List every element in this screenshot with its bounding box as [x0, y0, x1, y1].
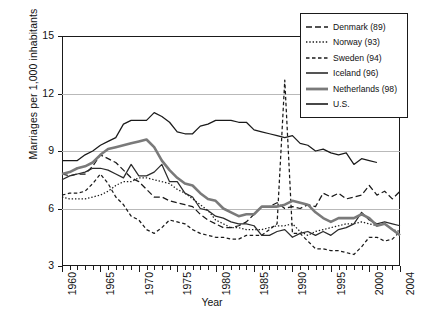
- legend-swatch: [306, 53, 328, 63]
- y-tick-label: 6: [14, 202, 54, 214]
- x-tick-mark: [369, 266, 370, 272]
- x-tick-mark: [308, 266, 309, 270]
- x-tick-mark: [139, 266, 140, 272]
- x-tick-label: 1960: [66, 272, 78, 295]
- legend-label: Iceland (96): [333, 68, 378, 78]
- x-tick-mark: [400, 266, 401, 272]
- x-tick-mark: [223, 266, 224, 270]
- legend-label: Sweden (94): [333, 53, 382, 63]
- x-tick-mark: [147, 266, 148, 270]
- x-tick-mark: [285, 266, 286, 270]
- x-tick-mark: [123, 266, 124, 270]
- chart-legend: Denmark (89)Norway (93)Sweden (94)Icelan…: [300, 13, 408, 118]
- x-tick-mark: [131, 266, 132, 270]
- x-tick-label: 1965: [104, 272, 116, 295]
- legend-label: Norway (93): [333, 37, 380, 47]
- x-tick-mark: [377, 266, 378, 270]
- x-tick-mark: [170, 266, 171, 270]
- x-tick-label: 1980: [220, 272, 232, 295]
- x-tick-mark: [300, 266, 301, 270]
- x-tick-label: 1975: [181, 272, 193, 295]
- x-tick-mark: [239, 266, 240, 270]
- x-tick-mark: [62, 266, 63, 272]
- x-tick-mark: [200, 266, 201, 270]
- legend-swatch: [306, 37, 328, 47]
- legend-item[interactable]: Norway (93): [306, 35, 402, 51]
- x-tick-mark: [362, 266, 363, 270]
- x-tick-mark: [354, 266, 355, 270]
- x-axis-title: Year: [0, 296, 424, 308]
- x-tick-mark: [70, 266, 71, 270]
- y-tick-label: 3: [14, 259, 54, 271]
- y-tick-label: 12: [14, 87, 54, 99]
- x-tick-mark: [339, 266, 340, 270]
- x-tick-mark: [85, 266, 86, 270]
- x-tick-mark: [346, 266, 347, 270]
- legend-swatch: [306, 68, 328, 78]
- legend-swatch: [306, 22, 328, 32]
- legend-label: Netherlands (98): [333, 84, 397, 94]
- legend-swatch: [306, 84, 328, 94]
- legend-label: U.S.: [333, 99, 350, 109]
- legend-item[interactable]: U.S.: [306, 97, 402, 113]
- series-line: [62, 164, 400, 237]
- x-tick-mark: [277, 266, 278, 270]
- y-tick-label: 9: [14, 144, 54, 156]
- legend-swatch: [306, 99, 328, 109]
- x-tick-mark: [77, 266, 78, 270]
- x-tick-mark: [208, 266, 209, 270]
- x-tick-label: 1995: [335, 272, 347, 295]
- x-tick-mark: [100, 266, 101, 272]
- x-tick-label: 1985: [258, 272, 270, 295]
- legend-item[interactable]: Netherlands (98): [306, 81, 402, 97]
- x-tick-label: 1990: [296, 272, 308, 295]
- x-tick-mark: [292, 266, 293, 272]
- x-tick-mark: [392, 266, 393, 270]
- legend-item[interactable]: Denmark (89): [306, 19, 402, 35]
- x-tick-mark: [323, 266, 324, 270]
- x-tick-mark: [93, 266, 94, 270]
- x-tick-mark: [177, 266, 178, 272]
- x-tick-mark: [262, 266, 263, 270]
- x-tick-mark: [108, 266, 109, 270]
- y-tick-label: 15: [14, 29, 54, 41]
- legend-item[interactable]: Sweden (94): [306, 50, 402, 66]
- x-tick-mark: [231, 266, 232, 270]
- x-tick-label: 2000: [373, 272, 385, 295]
- x-tick-mark: [254, 266, 255, 272]
- x-tick-mark: [162, 266, 163, 270]
- x-tick-mark: [116, 266, 117, 270]
- series-line: [62, 113, 377, 165]
- x-tick-mark: [385, 266, 386, 270]
- x-tick-mark: [269, 266, 270, 270]
- x-tick-mark: [185, 266, 186, 270]
- x-tick-mark: [331, 266, 332, 272]
- chart-figure: Marriages per 1,000 inhabitants Year 369…: [0, 0, 424, 318]
- legend-label: Denmark (89): [333, 22, 386, 32]
- x-tick-mark: [316, 266, 317, 270]
- x-tick-label: 2004: [404, 272, 416, 295]
- x-tick-label: 1970: [143, 272, 155, 295]
- x-tick-mark: [154, 266, 155, 270]
- x-tick-mark: [216, 266, 217, 272]
- x-tick-mark: [193, 266, 194, 270]
- legend-item[interactable]: Iceland (96): [306, 66, 402, 82]
- x-tick-mark: [246, 266, 247, 270]
